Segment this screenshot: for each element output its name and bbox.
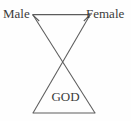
node-label-female: Female (86, 7, 124, 20)
node-label-god: GOD (0, 90, 131, 103)
diagram-canvas: Male Female GOD (0, 0, 131, 121)
node-label-male: Male (3, 7, 30, 20)
